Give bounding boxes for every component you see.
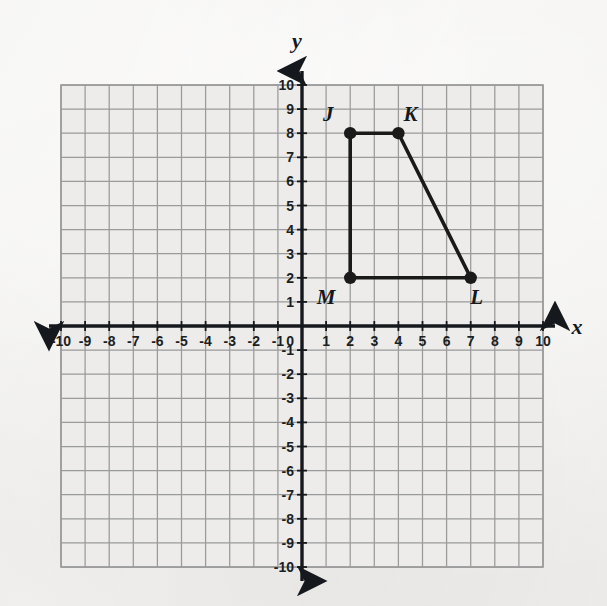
coordinate-plane: -10-9-8-7-6-5-4-3-2-11234567891010987654… [0, 0, 607, 606]
y-tick-label: 10 [278, 77, 294, 93]
x-tick-label: -4 [199, 333, 212, 349]
x-tick-label: -3 [223, 333, 236, 349]
vertex-label-k: K [402, 102, 419, 126]
x-tick-label: 5 [419, 333, 427, 349]
x-tick-label: -6 [151, 333, 164, 349]
y-tick-label: 7 [286, 149, 294, 165]
y-tick-label: 2 [286, 270, 294, 286]
x-tick-label: -2 [248, 333, 261, 349]
graph-image: -10-9-8-7-6-5-4-3-2-11234567891010987654… [0, 0, 607, 606]
x-tick-label: 10 [535, 333, 551, 349]
vertex-point-m [344, 272, 356, 284]
y-tick-label: -8 [282, 511, 295, 527]
x-tick-label: -8 [103, 333, 116, 349]
x-tick-label: 6 [443, 333, 451, 349]
x-tick-label: 3 [370, 333, 378, 349]
y-tick-label: 9 [286, 101, 294, 117]
y-tick-label: 4 [286, 222, 294, 238]
x-tick-label: 8 [491, 333, 499, 349]
x-tick-label: -5 [175, 333, 188, 349]
y-tick-label: -9 [282, 535, 295, 551]
y-tick-label: 3 [286, 246, 294, 262]
origin-label: 0 [286, 333, 294, 349]
vertex-point-k [392, 127, 404, 139]
x-tick-label: 4 [395, 333, 403, 349]
y-tick-label: 6 [286, 173, 294, 189]
vertex-label-l: L [469, 285, 483, 309]
vertex-point-j [344, 127, 356, 139]
x-tick-label: 1 [322, 333, 330, 349]
x-tick-label: 7 [467, 333, 475, 349]
x-tick-label: -10 [51, 333, 71, 349]
y-tick-label: 1 [286, 294, 294, 310]
y-tick-label: -2 [282, 366, 295, 382]
vertex-point-l [465, 272, 477, 284]
x-tick-label: -9 [79, 333, 92, 349]
y-tick-label: -7 [282, 487, 295, 503]
y-tick-label: -3 [282, 390, 295, 406]
y-axis-label: y [289, 28, 302, 53]
x-tick-label: 2 [346, 333, 354, 349]
y-tick-label: -6 [282, 463, 295, 479]
x-tick-label: 9 [515, 333, 523, 349]
vertex-label-m: M [316, 285, 337, 309]
x-axis-label: x [571, 314, 583, 339]
y-tick-label: -4 [282, 414, 295, 430]
y-tick-label: -5 [282, 439, 295, 455]
y-tick-label: 5 [286, 198, 294, 214]
y-tick-label: -10 [274, 559, 294, 575]
y-tick-label: 8 [286, 125, 294, 141]
vertex-label-j: J [322, 102, 335, 126]
x-tick-label: -7 [127, 333, 140, 349]
